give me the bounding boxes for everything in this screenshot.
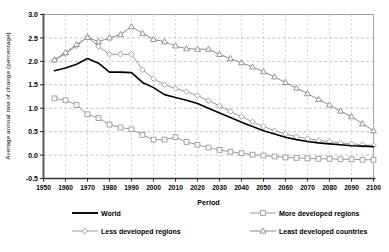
y-axis-title: Average annual rate of change (percentag… xyxy=(4,32,11,160)
data-point-square xyxy=(228,149,233,154)
x-tick-label: 2090 xyxy=(344,184,359,191)
y-tick-label: 1.5 xyxy=(28,81,38,88)
x-tick-label: 2020 xyxy=(190,184,205,191)
x-tick-label: 1950 xyxy=(36,184,51,191)
y-tick-label: 2.0 xyxy=(28,58,38,65)
x-tick-label: 2000 xyxy=(146,184,161,191)
y-tick-label: -0.5 xyxy=(26,175,38,182)
data-point-square xyxy=(107,122,112,127)
data-point-square xyxy=(371,157,376,162)
legend-label: Least developed countries xyxy=(279,228,367,236)
y-tick-label: 3.0 xyxy=(28,11,38,18)
data-point-square xyxy=(283,155,288,160)
legend-item[interactable]: Least developed countries xyxy=(250,228,367,236)
data-point-square xyxy=(129,127,134,132)
x-tick-label: 2100 xyxy=(366,184,381,191)
data-point-square xyxy=(239,151,244,156)
data-point-square xyxy=(206,145,211,150)
data-point-square xyxy=(305,156,310,161)
x-tick-label: 1960 xyxy=(58,184,73,191)
y-tick-label: 0.0 xyxy=(28,152,38,159)
data-point-square xyxy=(360,157,365,162)
data-point-square xyxy=(349,157,354,162)
chart-container: -0.50.00.51.01.52.02.53.0195019601970198… xyxy=(0,0,389,252)
legend-label: World xyxy=(101,210,121,217)
x-tick-label: 2050 xyxy=(256,184,271,191)
y-tick-label: 2.5 xyxy=(28,35,38,42)
data-point-square xyxy=(261,153,266,158)
legend-item[interactable]: Less developed regions xyxy=(72,228,181,236)
data-point-diamond xyxy=(82,228,88,234)
data-point-square xyxy=(217,148,222,153)
x-tick-label: 1990 xyxy=(124,184,139,191)
x-tick-label: 2060 xyxy=(278,184,293,191)
data-point-square xyxy=(250,152,255,157)
y-tick-label: 0.5 xyxy=(28,128,38,135)
y-tick-label: 1.0 xyxy=(28,105,38,112)
data-point-square xyxy=(294,155,299,160)
line-chart: -0.50.00.51.01.52.02.53.0195019601970198… xyxy=(0,0,389,252)
x-tick-label: 2070 xyxy=(300,184,315,191)
data-point-square xyxy=(261,211,266,216)
x-tick-label: 1980 xyxy=(102,184,117,191)
x-tick-label: 2010 xyxy=(168,184,183,191)
data-point-square xyxy=(96,116,101,121)
x-tick-label: 1970 xyxy=(80,184,95,191)
data-point-square xyxy=(63,98,68,103)
x-axis-title: Period xyxy=(197,198,219,207)
legend-item[interactable]: World xyxy=(72,210,121,217)
data-point-square xyxy=(118,125,123,130)
data-point-square xyxy=(151,137,156,142)
x-tick-label: 2030 xyxy=(212,184,227,191)
data-point-square xyxy=(85,112,90,117)
x-tick-label: 2040 xyxy=(234,184,249,191)
data-point-square xyxy=(327,156,332,161)
legend-item[interactable]: More developed regions xyxy=(250,210,360,218)
data-point-square xyxy=(162,137,167,142)
data-point-square xyxy=(74,103,79,108)
legend-label: Less developed regions xyxy=(101,228,181,236)
data-point-square xyxy=(195,142,200,147)
data-point-square xyxy=(173,135,178,140)
data-point-square xyxy=(52,96,57,101)
data-point-square xyxy=(338,157,343,162)
data-point-square xyxy=(140,133,145,138)
data-point-square xyxy=(184,140,189,145)
x-tick-label: 2080 xyxy=(322,184,337,191)
data-point-square xyxy=(316,156,321,161)
legend-label: More developed regions xyxy=(279,210,360,218)
data-point-square xyxy=(272,154,277,159)
